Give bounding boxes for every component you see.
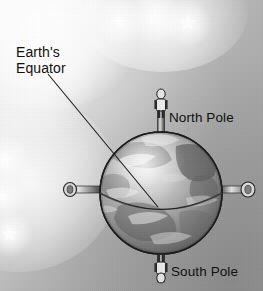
earth-diagram-scene: ★★★★★★ [0,0,263,291]
south-pole-label: South Pole [171,264,238,279]
equator-label: Earth's Equator [16,44,66,76]
north-pole-label: North Pole [169,110,234,125]
